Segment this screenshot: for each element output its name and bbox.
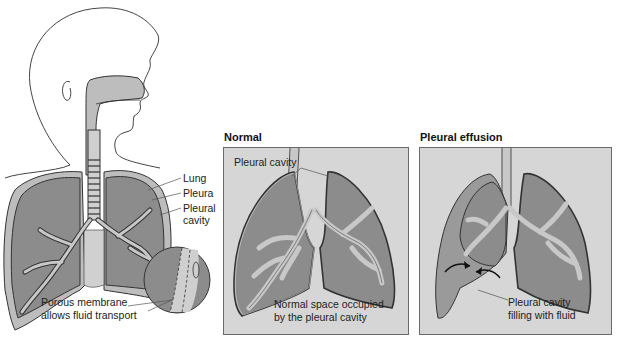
label-membrane-line1: Porous membrane [41,296,127,308]
panel-title-pleural-effusion: Pleural effusion [420,131,503,143]
label-pleural-cavity-line1: Pleural [183,202,216,214]
panel-normal: Pleural cavity Normal space occupied by … [223,147,409,335]
label-pleural-cavity-filling-line1: Pleural cavity [508,296,570,308]
label-pleural-cavity-line2: cavity [183,214,210,226]
panel-pleural-effusion: Pleural cavity filling with fluid [419,147,612,335]
label-membrane-line2: allows fluid transport [41,309,137,321]
label-pleura: Pleura [183,187,213,199]
label-pleural-cavity: Pleural cavity [234,156,296,168]
label-normal-space-line1: Normal space occupied [274,298,384,310]
label-lung: Lung [183,172,206,184]
label-normal-space-line2: by the pleural cavity [274,311,367,323]
label-pleural-cavity-filling-line2: filling with fluid [508,309,576,321]
panel-title-normal: Normal [224,131,262,143]
